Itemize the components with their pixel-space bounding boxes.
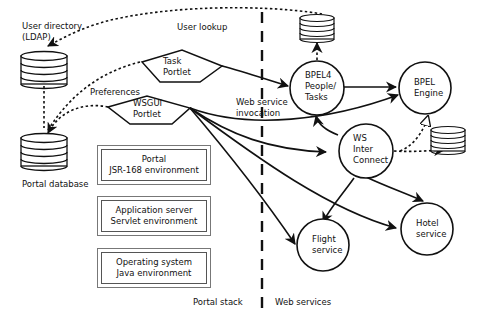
- ldap-database-icon: [21, 52, 67, 89]
- flight-service-label: Flight service: [312, 234, 342, 256]
- flight-service-line2: service: [312, 245, 342, 256]
- web-services-label: Web services: [275, 297, 331, 308]
- ldap-label-line1: User directory: [22, 21, 82, 32]
- bpel4people-line2: People/: [305, 81, 336, 92]
- hotel-service-line1: Hotel: [416, 218, 446, 229]
- stack-box-appserver-line1: Application server: [111, 205, 198, 216]
- ws-invocation-label: Web service invocation: [236, 97, 288, 119]
- stack-box-os-line2: Java environment: [116, 268, 192, 279]
- flight-service-line1: Flight: [312, 234, 342, 245]
- stack-box-os-inner: Operating systemJava environment: [101, 252, 207, 284]
- ws-invocation-line1: Web service: [236, 97, 288, 108]
- task-to-bpel4-edge: [222, 66, 288, 86]
- stack-box-os: Operating systemJava environment: [97, 248, 211, 288]
- portal-database-icon: [21, 134, 67, 171]
- wsgui-prefs-edge: [48, 106, 108, 133]
- stack-box-appserver: Application serverServlet environment: [97, 196, 211, 236]
- bpel-engine-line1: BPEL: [414, 77, 443, 88]
- portal-database-label: Portal database: [22, 179, 89, 190]
- architecture-diagram: User directory (LDAP) Portal database Us…: [0, 0, 482, 324]
- portal-stack-label: Portal stack: [193, 297, 243, 308]
- hotel-service-line2: service: [416, 229, 446, 240]
- task-portlet-label: Task Portlet: [163, 56, 191, 78]
- stack-box-portal-inner: PortalJSR-168 environment: [101, 149, 207, 181]
- stack-box-appserver-line2: Servlet environment: [111, 216, 198, 227]
- bpel4people-line1: BPEL4: [305, 70, 336, 81]
- bpel-engine-line2: Engine: [414, 88, 443, 99]
- ldap-label: User directory (LDAP): [22, 21, 82, 43]
- wsgui-portlet-label: WSGUI Portlet: [133, 98, 162, 120]
- stack-box-portal: PortalJSR-168 environment: [97, 145, 211, 185]
- stack-box-os-line1: Operating system: [116, 257, 192, 268]
- task-portlet-line1: Task: [163, 56, 191, 67]
- stack-box-appserver-inner: Application serverServlet environment: [101, 200, 207, 232]
- bpel-engine-label: BPEL Engine: [414, 77, 443, 99]
- preferences-label: Preferences: [90, 87, 140, 98]
- ws-interconnect-line1: WS: [353, 133, 388, 144]
- ws-interconnect-line2: Inter: [353, 144, 388, 155]
- user-lookup-label: User lookup: [177, 22, 227, 33]
- bpel4people-line3: Tasks: [305, 92, 336, 103]
- ldap-label-line2: (LDAP): [22, 32, 82, 43]
- stack-box-portal-line2: JSR-168 environment: [109, 165, 199, 176]
- wsic-engine-edge: [400, 116, 428, 151]
- stack-box-portal-line1: Portal: [109, 154, 199, 165]
- ws-invocation-line2: invocation: [236, 108, 288, 119]
- wsic-to-hotel-edge: [366, 177, 423, 201]
- engine-database-icon: [431, 127, 465, 155]
- task-portlet-line2: Portlet: [163, 67, 191, 78]
- tasks-database-icon: [300, 15, 334, 43]
- wsgui-portlet-line2: Portlet: [133, 109, 162, 120]
- diagram-graphics: [0, 0, 482, 324]
- bpel4people-label: BPEL4 People/ Tasks: [305, 70, 336, 103]
- wsic-to-bpel4-edge: [316, 116, 338, 135]
- wsgui-portlet-line1: WSGUI: [133, 98, 162, 109]
- ws-interconnect-label: WS Inter Connect: [353, 133, 388, 166]
- ws-interconnect-line3: Connect: [353, 155, 388, 166]
- hotel-service-label: Hotel service: [416, 218, 446, 240]
